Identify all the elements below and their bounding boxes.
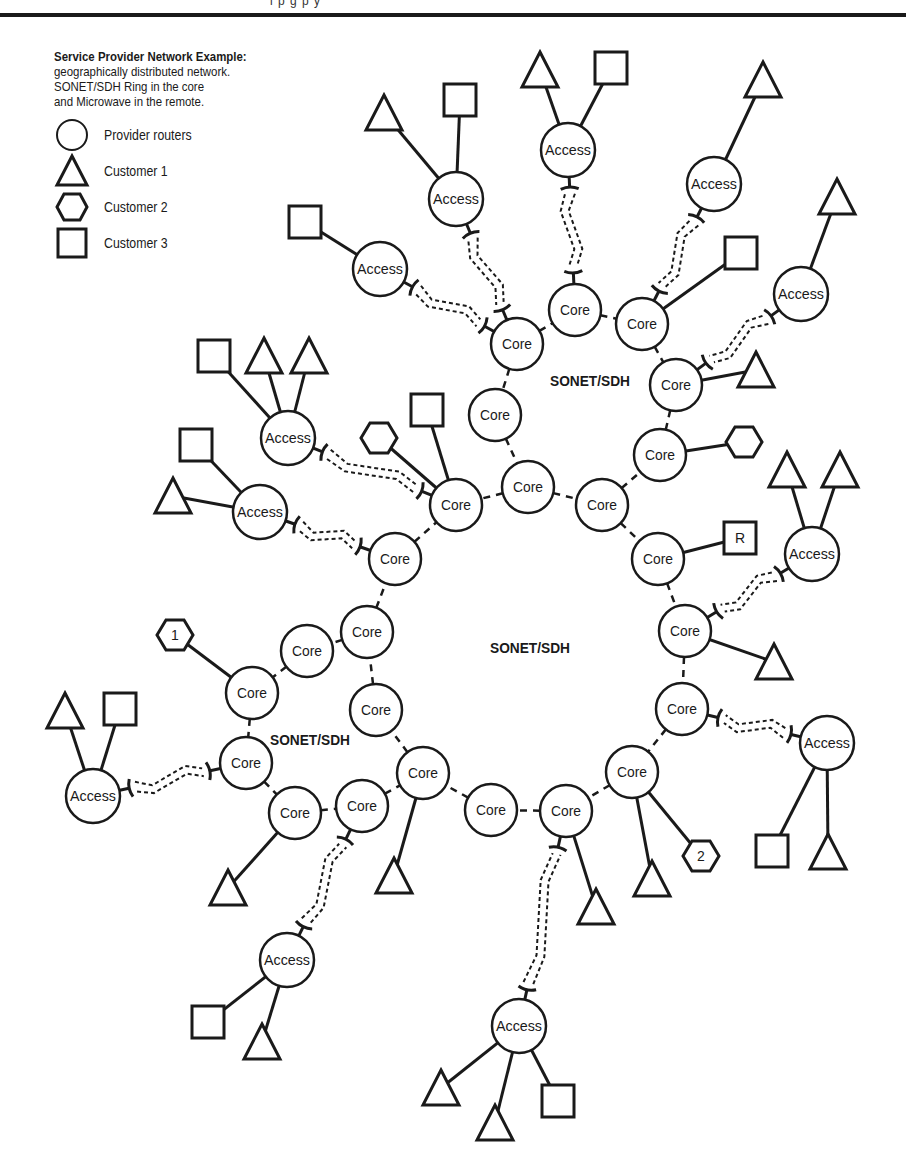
access-router: Access bbox=[785, 527, 839, 581]
core-router: Core bbox=[632, 533, 684, 585]
router-label: Core bbox=[408, 765, 438, 781]
triangle-icon bbox=[634, 861, 670, 896]
antenna-icon bbox=[519, 986, 537, 990]
antenna-icon bbox=[294, 516, 300, 533]
customer-1-site bbox=[810, 834, 846, 869]
access-router: Access bbox=[492, 999, 546, 1053]
router-label: Access bbox=[237, 504, 283, 520]
sonet-ring-label: SONET/SDH bbox=[270, 732, 350, 748]
radio-wave-icon bbox=[468, 241, 496, 304]
legend-item-provider-routers: Provider routers bbox=[54, 117, 273, 153]
square-icon bbox=[180, 429, 212, 461]
router-label: Access bbox=[789, 546, 835, 562]
antenna-icon bbox=[321, 444, 328, 461]
antenna-icon bbox=[561, 187, 579, 189]
microwave-link bbox=[519, 811, 567, 1026]
access-router: Access bbox=[261, 411, 315, 465]
antenna-icon bbox=[764, 310, 775, 325]
radio-wave-icon bbox=[721, 573, 772, 605]
triangle-icon bbox=[376, 858, 412, 893]
legend-item-label: Customer 2 bbox=[104, 199, 168, 215]
router-label: Access bbox=[545, 142, 591, 158]
radio-wave-icon bbox=[311, 847, 347, 922]
sonet-ring-label: SONET/SDH bbox=[490, 640, 570, 656]
access-router: Access bbox=[353, 242, 407, 296]
customer-3-site bbox=[444, 84, 476, 116]
antenna-icon bbox=[463, 231, 480, 238]
triangle-icon bbox=[423, 1070, 459, 1105]
customer-3-site bbox=[180, 429, 212, 461]
square-icon bbox=[54, 225, 90, 261]
legend-item-customer-1: Customer 1 bbox=[54, 153, 273, 189]
router-label: Core bbox=[502, 336, 532, 352]
triangle-icon bbox=[246, 338, 282, 373]
core-router: Core bbox=[576, 479, 628, 531]
router-label: Core bbox=[617, 764, 647, 780]
hexagon-icon bbox=[361, 423, 397, 453]
triangle-icon bbox=[810, 834, 846, 869]
core-router: Core bbox=[606, 746, 658, 798]
customer-1-site bbox=[423, 1070, 459, 1105]
customer-1-site bbox=[376, 858, 412, 893]
radio-wave-icon bbox=[726, 715, 786, 728]
antenna-icon bbox=[206, 762, 210, 780]
router-label: Core bbox=[645, 447, 675, 463]
router-label: Access bbox=[264, 952, 310, 968]
router-label: Core bbox=[627, 316, 657, 332]
legend-item-label: Customer 1 bbox=[104, 163, 168, 179]
triangle-icon bbox=[522, 52, 558, 87]
customer-3-site bbox=[289, 206, 321, 238]
router-label: Core bbox=[441, 497, 471, 513]
customer-1-site bbox=[246, 338, 282, 373]
core-router: Core bbox=[336, 780, 388, 832]
core-router: Core bbox=[634, 429, 686, 481]
access-router: Access bbox=[687, 157, 741, 211]
core-router: Core bbox=[650, 359, 702, 411]
core-router: Core bbox=[502, 461, 554, 513]
router-label: Access bbox=[70, 788, 116, 804]
legend-items: Provider routers Customer 1 Customer 2 C… bbox=[54, 117, 273, 261]
triangle-icon bbox=[155, 478, 191, 513]
triangle-icon bbox=[291, 338, 327, 373]
core-router: Core bbox=[659, 605, 711, 657]
customer-1-site bbox=[578, 889, 614, 924]
square-icon bbox=[595, 52, 627, 84]
router-label: Core bbox=[661, 377, 691, 393]
customer-1-site bbox=[244, 1024, 280, 1059]
microwave-links bbox=[93, 150, 827, 1026]
radio-wave-icon bbox=[327, 459, 414, 492]
square-icon bbox=[542, 1085, 574, 1117]
router-label: Access bbox=[357, 261, 403, 277]
customer-1-site bbox=[738, 352, 774, 387]
core-router: Core bbox=[616, 298, 668, 350]
router-label: Access bbox=[433, 191, 479, 207]
legend-item-customer-2: Customer 2 bbox=[54, 189, 273, 225]
site-label: 1 bbox=[171, 627, 179, 643]
access-router: Access bbox=[233, 485, 287, 539]
customer-1-site bbox=[756, 644, 792, 679]
square-icon bbox=[289, 206, 321, 238]
triangle-icon bbox=[578, 889, 614, 924]
router-label: Core bbox=[551, 803, 581, 819]
square-icon bbox=[756, 835, 788, 867]
customer-2-site bbox=[361, 423, 397, 453]
hexagon-icon bbox=[726, 427, 762, 457]
router-label: Core bbox=[670, 623, 700, 639]
customer-2-site: 2 bbox=[683, 841, 719, 871]
core-router: Core bbox=[491, 318, 543, 370]
triangle-icon bbox=[822, 452, 858, 487]
triangle-icon bbox=[54, 153, 90, 189]
radio-wave-icon bbox=[300, 531, 352, 548]
site-label: R bbox=[735, 530, 745, 546]
customer-1-site bbox=[477, 1105, 513, 1140]
router-label: Core bbox=[380, 551, 410, 567]
customer-3-site bbox=[542, 1085, 574, 1117]
customer-1-site bbox=[47, 693, 83, 728]
customer-3-site bbox=[104, 693, 136, 725]
router-label: Access bbox=[778, 286, 824, 302]
antenna-icon bbox=[296, 921, 312, 929]
legend-title: Service Provider Network Example: bbox=[54, 49, 247, 64]
router-label: Core bbox=[231, 755, 261, 771]
access-router: Access bbox=[800, 716, 854, 770]
customer-3-site: R bbox=[724, 522, 756, 554]
